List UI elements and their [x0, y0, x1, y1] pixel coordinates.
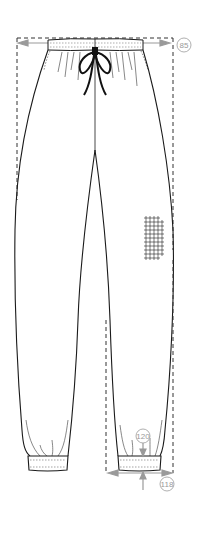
right-cuff: [118, 456, 161, 471]
left-leg-gathers: [26, 420, 68, 456]
pants-technical-drawing: 85: [0, 0, 205, 539]
left-cuff: [28, 456, 68, 471]
fabric-swatch-grid: [144, 216, 164, 260]
leg-opening-label: 118: [161, 480, 174, 489]
pants-outline: [15, 50, 174, 456]
waist-width-badge: 85: [177, 38, 191, 52]
leg-opening-badge: 118: [160, 477, 174, 491]
cuff-height-label: 120: [136, 432, 150, 441]
waist-width-label: 85: [180, 41, 189, 50]
cuff-height-badge: 120: [136, 429, 150, 443]
